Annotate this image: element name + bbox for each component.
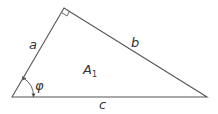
- triangle-diagram: a b c φ A 1: [0, 0, 218, 114]
- angle-label: φ: [35, 78, 44, 93]
- area-label: A: [82, 62, 92, 77]
- right-angle-marker: [62, 11, 70, 16]
- side-b-label: b: [131, 35, 139, 50]
- side-c-label: c: [99, 97, 106, 112]
- area-subscript: 1: [92, 70, 97, 79]
- side-a-label: a: [29, 37, 37, 52]
